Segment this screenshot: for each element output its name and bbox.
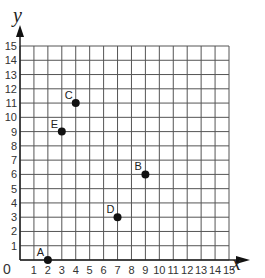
x-tick-label: 11: [168, 264, 179, 276]
y-tick-label: 6: [11, 168, 17, 180]
y-tick-label: 9: [11, 126, 17, 138]
x-tick-labels: 123456789101112131415: [31, 264, 235, 276]
point-b: [141, 170, 149, 178]
x-tick-label: 8: [128, 264, 134, 276]
x-tick-label: 9: [142, 264, 148, 276]
x-axis-label: x: [231, 252, 241, 274]
y-tick-label: 8: [11, 140, 17, 152]
x-tick-label: 10: [153, 264, 165, 276]
x-tick-label: 14: [209, 264, 221, 276]
point-label-b: B: [134, 160, 141, 172]
y-tick-label: 3: [11, 211, 17, 223]
y-tick-label: 2: [11, 225, 17, 237]
x-tick-label: 6: [101, 264, 107, 276]
y-tick-label: 1: [11, 240, 17, 252]
grid-lines: [20, 46, 229, 260]
y-tick-label: 15: [5, 40, 17, 52]
y-tick-label: 13: [5, 69, 17, 81]
point-label-d: D: [107, 203, 115, 215]
y-tick-labels: 123456789101112131415: [5, 40, 17, 252]
y-tick-label: 5: [11, 183, 17, 195]
y-tick-label: 10: [5, 111, 17, 123]
x-tick-label: 2: [45, 264, 51, 276]
x-tick-label: 7: [114, 264, 120, 276]
origin-label: 0: [3, 261, 11, 277]
point-label-a: A: [37, 246, 45, 258]
point-a: [44, 256, 52, 264]
x-tick-label: 4: [73, 264, 79, 276]
data-points: ABCDE: [37, 89, 150, 264]
x-tick-label: 12: [181, 264, 193, 276]
point-label-e: E: [51, 118, 58, 130]
y-tick-label: 14: [5, 54, 17, 66]
point-c: [72, 99, 80, 107]
x-tick-label: 3: [59, 264, 65, 276]
y-axis-label: y: [11, 4, 22, 27]
x-tick-label: 13: [195, 264, 207, 276]
x-tick-label: 1: [31, 264, 37, 276]
y-tick-label: 12: [5, 83, 17, 95]
y-tick-label: 4: [11, 197, 17, 209]
point-d: [114, 213, 122, 221]
x-tick-label: 5: [87, 264, 93, 276]
coordinate-grid-chart: 123456789101112131415 123456789101112131…: [0, 0, 265, 278]
y-axis-arrow-icon: [16, 25, 24, 37]
y-tick-label: 11: [6, 97, 17, 109]
point-e: [58, 128, 66, 136]
y-tick-label: 7: [11, 154, 17, 166]
point-label-c: C: [65, 89, 73, 101]
